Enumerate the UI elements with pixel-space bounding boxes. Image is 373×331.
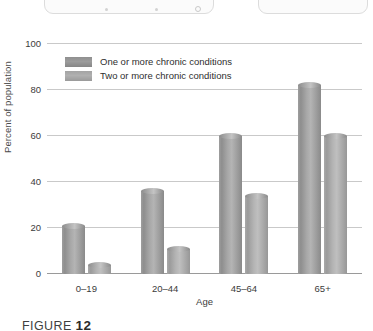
y-axis-tick: 0	[36, 268, 41, 279]
chart-page: Percent of population 020406080100 0–192…	[0, 0, 373, 331]
y-axis-label: Percent of population	[2, 33, 13, 153]
legend-swatch	[65, 57, 92, 67]
x-axis-tick: 20–44	[152, 283, 178, 294]
legend-label: Two or more chronic conditions	[100, 70, 231, 81]
y-axis-tick: 60	[30, 130, 41, 141]
bar[interactable]	[62, 226, 85, 274]
y-axis-tick: 80	[30, 84, 41, 95]
legend-label: One or more chronic conditions	[100, 56, 232, 67]
bar[interactable]	[167, 249, 190, 274]
toolbar-dot-icon	[155, 8, 158, 11]
toolbar-pill[interactable]	[44, 0, 214, 14]
y-axis-tick: 100	[25, 38, 41, 49]
chart-figure: Percent of population 020406080100 0–192…	[0, 28, 373, 308]
app-chrome	[0, 0, 373, 18]
toolbar-circle-icon	[195, 6, 201, 12]
x-axis-tick: 0–19	[76, 283, 97, 294]
bar[interactable]	[245, 196, 268, 274]
legend-item[interactable]: One or more chronic conditions	[65, 56, 232, 67]
x-axis-tick: 65+	[315, 283, 331, 294]
bar-group: 65+	[288, 44, 358, 274]
bar[interactable]	[88, 265, 111, 274]
figure-caption: FIGURE 12	[22, 318, 91, 331]
legend-item[interactable]: Two or more chronic conditions	[65, 70, 232, 81]
toolbar-dot-icon	[105, 8, 108, 11]
secondary-pill[interactable]	[258, 0, 368, 14]
bar[interactable]	[141, 191, 164, 274]
y-axis-tick: 20	[30, 222, 41, 233]
figure-caption-number: 12	[76, 318, 92, 331]
x-axis-label: Age	[47, 296, 362, 307]
y-axis-tick: 40	[30, 176, 41, 187]
bar[interactable]	[298, 85, 321, 274]
legend-swatch	[65, 71, 92, 81]
figure-caption-prefix: FIGURE	[22, 319, 76, 331]
x-axis-tick: 45–64	[231, 283, 257, 294]
bar[interactable]	[324, 136, 347, 274]
chart-legend: One or more chronic conditionsTwo or mor…	[65, 56, 232, 84]
bar[interactable]	[219, 136, 242, 274]
